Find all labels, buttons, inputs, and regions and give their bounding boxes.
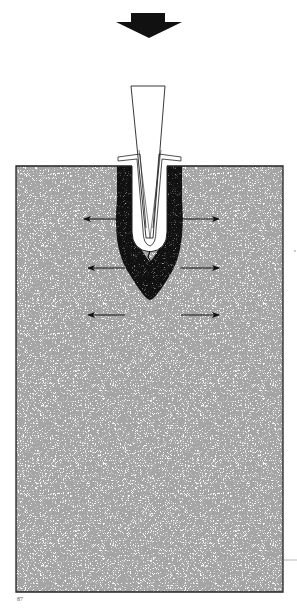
wedge-diagram: [0, 0, 297, 608]
force-arrow-icon: [116, 13, 182, 38]
page-number: 87: [17, 596, 23, 602]
margin-dot: [294, 250, 296, 252]
